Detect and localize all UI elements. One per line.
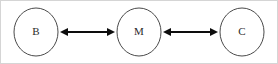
edge-m-c-arrowhead-left bbox=[163, 28, 171, 36]
node-b[interactable]: B bbox=[14, 8, 58, 56]
edge-m-c[interactable] bbox=[163, 28, 218, 36]
edge-b-m[interactable] bbox=[60, 28, 115, 36]
edge-b-m-arrowhead-left bbox=[60, 28, 68, 36]
node-c-label: C bbox=[238, 25, 245, 37]
edge-m-c-arrowhead-right bbox=[210, 28, 218, 36]
node-m-label: M bbox=[134, 25, 144, 37]
node-m[interactable]: M bbox=[117, 8, 161, 56]
node-b-label: B bbox=[32, 25, 39, 37]
node-c[interactable]: C bbox=[220, 8, 264, 56]
edge-b-m-arrowhead-right bbox=[107, 28, 115, 36]
diagram-svg: B M C bbox=[0, 0, 278, 64]
diagram-canvas: B M C bbox=[0, 0, 278, 64]
